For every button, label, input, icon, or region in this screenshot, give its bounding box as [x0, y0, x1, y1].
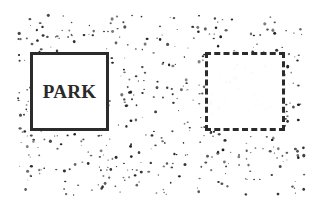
park-box: PARK — [30, 52, 109, 131]
park-label: PARK — [43, 81, 97, 103]
empty-dashed-box — [205, 52, 285, 131]
